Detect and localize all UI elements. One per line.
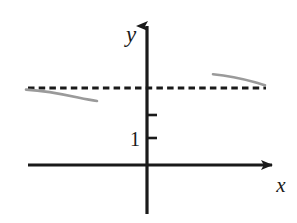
y-axis-label: y	[124, 22, 137, 47]
curve-left-branch	[26, 90, 97, 101]
y-tick-label-one: 1	[130, 128, 140, 150]
graph-figure: y x 1	[0, 0, 297, 223]
graph-canvas: y x 1	[0, 0, 297, 223]
x-axis-label: x	[275, 173, 286, 197]
curve-right-branch	[213, 74, 265, 85]
